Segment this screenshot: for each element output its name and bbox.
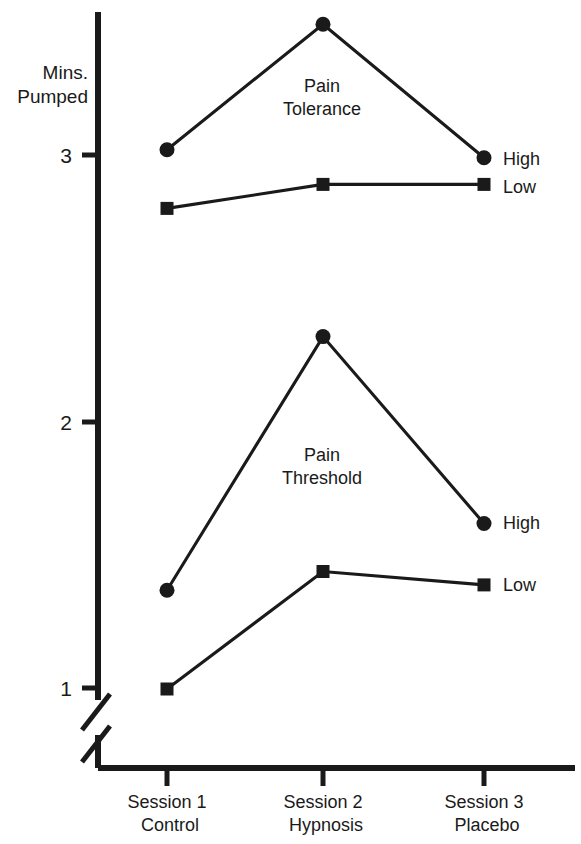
- data-point-square: [478, 578, 491, 591]
- x-tick-label-session-1-line2: Control: [141, 815, 199, 835]
- data-point-circle: [477, 516, 492, 531]
- y-tick-label-1: 1: [60, 677, 72, 700]
- data-point-circle: [477, 150, 492, 165]
- line-chart: 3 2 1 Mins. Pumped Session 1 Control Ses…: [0, 0, 581, 844]
- data-point-square: [478, 178, 491, 191]
- annotation-pain-threshold-line2: Threshold: [282, 468, 362, 488]
- data-point-circle: [160, 142, 175, 157]
- data-point-square: [161, 683, 174, 696]
- series-line-threshold-low: [167, 572, 484, 690]
- data-point-circle: [160, 583, 175, 598]
- y-tick-label-3: 3: [60, 144, 72, 167]
- data-point-square: [161, 202, 174, 215]
- series-label-tolerance-high: High: [503, 149, 540, 169]
- series-markers-threshold-low: [161, 565, 491, 696]
- annotation-pain-threshold-line1: Pain: [304, 445, 340, 465]
- data-point-square: [317, 565, 330, 578]
- data-point-circle: [316, 17, 331, 32]
- y-axis-label-line2: Pumped: [17, 86, 88, 107]
- x-tick-label-session-3-line1: Session 3: [444, 792, 523, 812]
- figure-container: 3 2 1 Mins. Pumped Session 1 Control Ses…: [0, 0, 581, 844]
- x-tick-label-session-1-line1: Session 1: [127, 792, 206, 812]
- x-tick-label-session-2-line2: Hypnosis: [289, 815, 363, 835]
- x-tick-label-session-2-line1: Session 2: [283, 792, 362, 812]
- annotation-pain-tolerance-line2: Tolerance: [283, 99, 361, 119]
- series-label-threshold-low: Low: [503, 575, 537, 595]
- annotation-pain-tolerance-line1: Pain: [304, 76, 340, 96]
- data-point-circle: [316, 329, 331, 344]
- series-label-threshold-high: High: [503, 513, 540, 533]
- data-point-square: [317, 178, 330, 191]
- x-tick-label-session-3-line2: Placebo: [454, 815, 519, 835]
- y-axis-label-line1: Mins.: [43, 62, 88, 83]
- series-label-tolerance-low: Low: [503, 177, 537, 197]
- y-tick-label-2: 2: [60, 411, 72, 434]
